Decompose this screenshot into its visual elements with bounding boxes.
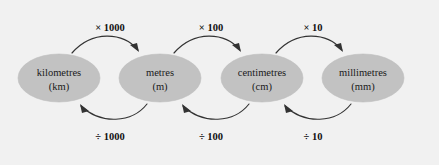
divide-label-mm-to-cm: ÷ 10 [304,131,323,142]
multiply-label-km-to-m: × 1000 [95,22,125,33]
arrow-curve [81,104,147,119]
divide-edge-cm-to-m: ÷ 100 [182,104,249,142]
node-km[interactable]: kilometres (km) [18,54,100,102]
arrow-head-icon [130,43,139,52]
arrow-curve [72,36,138,53]
divide-edge-mm-to-cm: ÷ 10 [284,104,351,142]
arrow-curve [276,36,342,53]
node-abbrev-mm: (mm) [351,81,375,93]
arrow-curve [174,36,240,53]
multiply-label-cm-to-mm: × 10 [303,22,322,33]
node-name-cm: centimetres [238,67,286,78]
node-abbrev-cm: (cm) [252,81,272,93]
node-abbrev-km: (km) [49,81,70,93]
multiply-edge-m-to-cm: × 100 [174,22,241,53]
node-abbrev-m: (m) [152,81,168,93]
divide-label-cm-to-m: ÷ 100 [199,131,223,142]
divide-label-m-to-km: ÷ 1000 [95,131,124,142]
node-shape [18,54,100,102]
arrow-head-icon [334,43,343,52]
conversion-diagram: × 1000 × 100 × 10 kilometres (km) metres… [0,0,439,165]
diagram-canvas: × 1000 × 100 × 10 kilometres (km) metres… [0,0,439,165]
arrow-curve [183,104,249,119]
node-m[interactable]: metres (m) [119,54,201,102]
node-name-km: kilometres [37,67,81,78]
multiply-edge-km-to-m: × 1000 [72,22,139,53]
node-name-m: metres [146,67,174,78]
arrow-head-icon [232,43,241,52]
node-shape [221,54,303,102]
divide-edge-m-to-km: ÷ 1000 [80,104,147,142]
node-mm[interactable]: millimetres (mm) [322,54,404,102]
node-shape [119,54,201,102]
multiply-label-m-to-cm: × 100 [199,22,223,33]
node-shape [322,54,404,102]
node-name-mm: millimetres [339,67,387,78]
node-cm[interactable]: centimetres (cm) [221,54,303,102]
multiply-edge-cm-to-mm: × 10 [276,22,343,53]
arrow-curve [285,104,351,119]
